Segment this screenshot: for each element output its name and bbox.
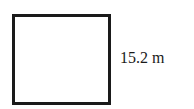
square-shape [12,14,111,105]
side-length-label: 15.2 m [120,49,164,67]
